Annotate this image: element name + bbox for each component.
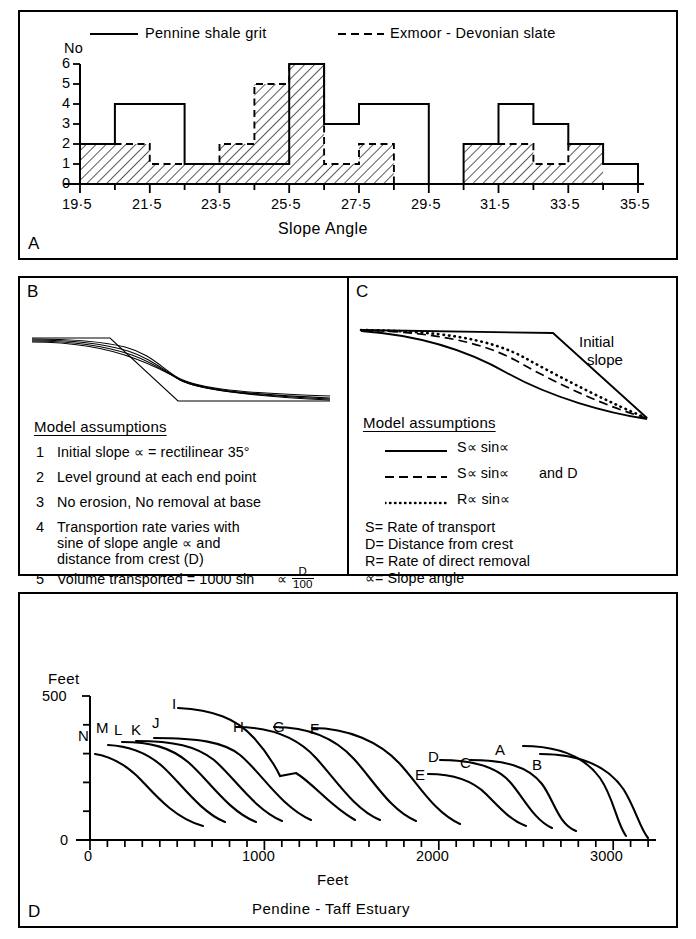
profile-label-E: E [415, 766, 425, 783]
profile-curve-E [428, 774, 526, 826]
item-5-fraction: D100 [292, 566, 314, 590]
panel-a-xlabel: Slope Angle [278, 220, 368, 238]
item-3-number: 3 [36, 494, 44, 510]
panel-d-y-tick-500: 500 [42, 688, 67, 704]
item-4-line-2: sine of slope angle ∝ and [57, 535, 221, 551]
y-tick-6: 6 [62, 55, 70, 71]
y-ticks [73, 64, 80, 184]
y-tick-1: 1 [62, 155, 70, 171]
panel-a: Pennine shale grit Exmoor - Devonian sla… [18, 10, 678, 260]
panel-d-label: D [28, 902, 41, 922]
panel-b-label: B [27, 282, 39, 302]
x-tick-31-5: 31·5 [480, 196, 510, 212]
panel-d: Feet [18, 592, 678, 928]
x-ticks [80, 184, 638, 193]
item-2-number: 2 [36, 469, 44, 485]
profile-curve-K [136, 741, 282, 821]
profile-label-J: J [152, 714, 160, 731]
panel-d-x-tick-3000: 3000 [590, 848, 623, 864]
initial-slope-annotation-line-2: slope [587, 351, 623, 368]
item-1-number: 1 [36, 444, 44, 460]
definition-s: S= Rate of transport [365, 519, 495, 535]
x-tick-25-5: 25·5 [271, 196, 301, 212]
panel-b: B Model assumptions 1 Initial slope ∝ = … [18, 276, 348, 576]
profile-label-D: D [428, 748, 439, 765]
x-tick-29-5: 29·5 [411, 196, 441, 212]
panel-c-label: C [356, 282, 369, 302]
item-3-text: No erosion, No removal at base [57, 494, 261, 510]
profile-label-G: G [273, 718, 285, 735]
y-tick-2: 2 [62, 135, 70, 151]
panel-d-caption: Pendine - Taff Estuary [252, 900, 410, 917]
x-tick-19-5: 19·5 [62, 196, 92, 212]
y-tick-4: 4 [62, 95, 70, 111]
panel-c-legend-label-2: S∝ sin∝ [457, 465, 509, 481]
panel-d-y-ticks [82, 696, 90, 840]
legend-label-pennine: Pennine shale grit [145, 25, 266, 41]
panel-d-x-tick-0: 0 [84, 848, 92, 864]
x-tick-21-5: 21·5 [132, 196, 162, 212]
definition-d: D= Distance from crest [365, 536, 513, 552]
item-2-text: Level ground at each end point [57, 469, 256, 485]
profile-curve-N [95, 754, 203, 826]
profile-label-B: B [532, 756, 542, 773]
fraction-numerator: D [292, 566, 314, 579]
profile-label-C: C [460, 754, 471, 771]
panel-c-legend-label-3: R∝ sin∝ [457, 491, 510, 507]
item-5-number: 5 [36, 571, 44, 587]
profile-label-K: K [131, 721, 141, 738]
definition-alpha: ∝= Slope angle [365, 570, 464, 586]
item-1-text: Initial slope ∝ = rectilinear 35° [57, 444, 250, 460]
profile-curve-I [178, 708, 355, 820]
y-tick-3: 3 [62, 115, 70, 131]
panel-a-ylabel: No [64, 40, 83, 56]
panel-d-x-ticks [90, 840, 648, 850]
profile-label-A: A [495, 741, 505, 758]
profile-label-N: N [78, 727, 89, 744]
x-tick-35-5: 35·5 [620, 196, 650, 212]
item-5-text: Volume transported = 1000 sin [57, 571, 254, 587]
figure-root: Pennine shale grit Exmoor - Devonian sla… [0, 0, 696, 939]
legend-label-exmoor: Exmoor - Devonian slate [390, 25, 556, 41]
item-4-line-3: distance from crest (D) [57, 551, 204, 567]
panel-c-profiles [357, 318, 667, 428]
x-tick-27-5: 27·5 [341, 196, 371, 212]
panel-d-x-tick-2000: 2000 [416, 848, 449, 864]
profile-label-I: I [172, 695, 176, 712]
profile-curve-C [470, 760, 576, 831]
panel-b-heading: Model assumptions [34, 419, 167, 435]
y-tick-5: 5 [62, 75, 70, 91]
profile-label-L: L [114, 721, 122, 738]
panel-c: C Initial slope Model assumptions S∝ sin… [348, 276, 678, 576]
profile-label-M: M [96, 719, 109, 736]
panel-b-profiles [30, 324, 340, 414]
slope-profile-curves [95, 708, 648, 838]
panel-d-chart [28, 654, 668, 904]
panel-a-label: A [28, 234, 40, 254]
x-tick-23-5: 23·5 [201, 196, 231, 212]
panel-c-key-dashed [385, 472, 465, 482]
profile-label-F: F [310, 720, 319, 737]
x-tick-33-5: 33·5 [550, 196, 580, 212]
panel-c-key-dotted [385, 498, 465, 508]
panel-d-y-tick-0: 0 [60, 832, 68, 848]
panel-c-key-solid [385, 446, 465, 456]
y-tick-0: 0 [62, 175, 70, 191]
profile-label-H: H [233, 718, 244, 735]
item-4-line-1: Transportion rate varies with [57, 519, 240, 535]
fraction-denominator: 100 [292, 579, 314, 591]
profile-curve-B [540, 754, 648, 838]
panel-c-heading: Model assumptions [363, 415, 496, 431]
panel-c-legend-label-1: S∝ sin∝ [457, 439, 509, 455]
definition-r: R= Rate of direct removal [365, 553, 530, 569]
item-4-number: 4 [36, 519, 44, 535]
panel-c-legend-label-2-extra: and D [539, 465, 578, 481]
initial-slope-annotation-line-1: Initial [579, 333, 614, 350]
panel-d-xlabel: Feet [317, 871, 349, 888]
panel-d-x-tick-1000: 1000 [242, 848, 275, 864]
item-5-alpha: ∝ [277, 571, 287, 587]
